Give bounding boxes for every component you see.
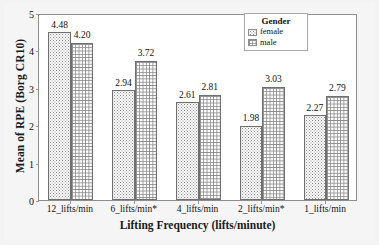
legend: Gender female male xyxy=(244,13,308,51)
legend-item-male: male xyxy=(248,38,304,48)
y-tick-label: 5 xyxy=(22,10,34,20)
bar-female-4_lifts/min xyxy=(176,102,199,200)
x-tick-mark xyxy=(134,201,135,204)
bar-value-label: 3.72 xyxy=(132,49,161,59)
legend-title: Gender xyxy=(248,16,304,26)
bar-value-label: 2.94 xyxy=(109,79,138,89)
bar-value-label: 2.81 xyxy=(196,83,225,93)
y-tick-label: 3 xyxy=(22,85,34,95)
legend-item-female: female xyxy=(248,27,304,37)
legend-label-female: female xyxy=(260,27,283,37)
bar-value-label: 2.27 xyxy=(301,104,330,114)
bar-male-6_lifts/min* xyxy=(135,61,158,200)
bar-female-6_lifts/min* xyxy=(112,90,135,200)
bar-male-4_lifts/min xyxy=(199,95,222,200)
bar-male-12_lifts/min xyxy=(71,43,94,200)
bar-female-1_lifts/min xyxy=(304,115,327,200)
legend-swatch-male-icon xyxy=(248,39,257,46)
x-tick-label: 1_lifts/min xyxy=(285,205,365,215)
bar-value-label: 1.98 xyxy=(237,114,266,124)
bars-container: 4.484.202.943.722.612.811.983.032.272.79 xyxy=(39,15,356,200)
legend-label-male: male xyxy=(260,38,277,48)
bar-male-1_lifts/min xyxy=(326,96,349,200)
bar-female-2_lifts/min* xyxy=(240,126,263,200)
y-tick-label: 1 xyxy=(22,160,34,170)
bar-female-12_lifts/min xyxy=(48,32,71,200)
bar-value-label: 4.48 xyxy=(45,21,74,31)
y-tick-mark xyxy=(36,201,39,202)
x-tick-mark xyxy=(325,201,326,204)
chart-figure: Mean of RPE (Borg CR10) 5 4 3 2 1 0 4.48… xyxy=(0,0,379,245)
bar-value-label: 3.03 xyxy=(259,75,288,85)
bar-male-2_lifts/min* xyxy=(262,87,285,200)
x-axis-title: Lifting Frequency (lifts/minute) xyxy=(38,219,357,231)
y-tick-label: 2 xyxy=(22,122,34,132)
y-tick-label: 4 xyxy=(22,47,34,57)
bar-value-label: 4.20 xyxy=(68,31,97,41)
bar-value-label: 2.79 xyxy=(323,84,352,94)
legend-swatch-female-icon xyxy=(248,29,257,36)
plot-area: 4.484.202.943.722.612.811.983.032.272.79 xyxy=(38,14,357,201)
x-tick-mark xyxy=(198,201,199,204)
x-tick-mark xyxy=(261,201,262,204)
x-tick-mark xyxy=(70,201,71,204)
